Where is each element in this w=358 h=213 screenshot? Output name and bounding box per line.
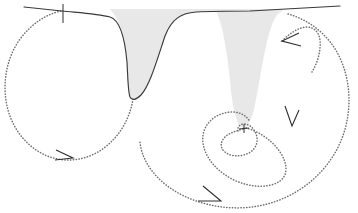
trajectory-entry-arc-upper-right <box>282 27 320 72</box>
arrow-left-orbit <box>55 150 73 160</box>
arrow-upper-right-inflow <box>282 33 301 46</box>
tick-well-bottom-horizontal <box>239 128 249 129</box>
barrier-shading <box>110 9 288 128</box>
trajectory-group <box>5 11 349 208</box>
figure-root <box>0 0 358 213</box>
arrow-mid-spiral <box>285 106 299 126</box>
potential-energy-curve <box>24 6 340 99</box>
arrow-head-group <box>55 33 301 201</box>
potential-well-diagram <box>0 0 358 213</box>
arrow-outer-spiral <box>198 186 221 201</box>
trajectory-left-orbit <box>5 11 133 160</box>
